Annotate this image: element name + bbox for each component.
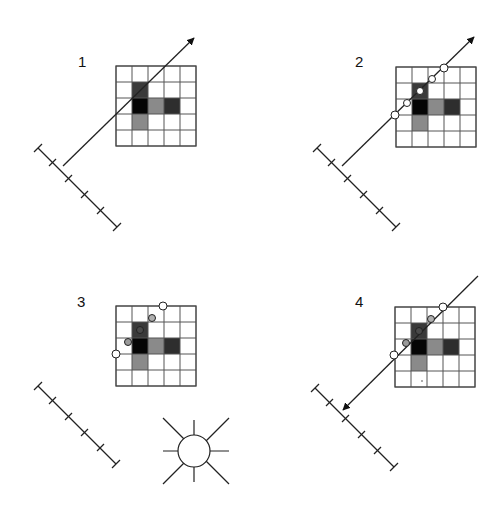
sample-point-icon [159,302,167,310]
panel-1: 1 [34,38,196,231]
sample-point-icon [416,328,423,335]
sample-point-icon [149,315,156,322]
panel-label-3: 3 [77,293,85,310]
sample-point-icon [390,351,398,359]
dot [421,380,423,382]
sample-point-icon [440,64,448,72]
panel-label-4: 4 [355,293,363,310]
detector-ruler-icon [311,384,398,471]
detector-ruler-icon [313,144,400,231]
sample-point-icon [439,303,447,311]
detector-ruler-icon [34,382,120,468]
ray-casting-figure: 1 2 [0,0,502,506]
sample-point-icon [125,339,132,346]
sun-icon [163,418,229,484]
sample-point-icon [137,327,144,334]
detector-ruler-icon [34,144,121,231]
panel-label-2: 2 [355,53,363,70]
sample-point-icon [404,100,411,107]
sample-point-icon [403,340,410,347]
panel-4: 4 [311,276,478,471]
panel-2: 2 [313,37,476,231]
sample-point-icon [391,111,399,119]
sample-point-icon [429,76,436,83]
sample-point-icon [112,350,120,358]
image-grid [116,66,196,146]
panel-3: 3 [34,293,229,484]
sample-point-icon [428,316,435,323]
sample-point-icon [417,88,424,95]
panel-label-1: 1 [78,53,86,70]
